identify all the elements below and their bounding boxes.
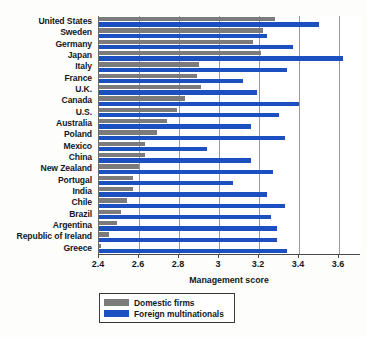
bar-foreign (99, 204, 285, 209)
bar-domestic (99, 176, 133, 181)
category-label: U.K. (75, 84, 92, 96)
bar-group (99, 50, 361, 61)
category-label: Argentina (53, 220, 92, 232)
x-tick-label: 3 (215, 259, 220, 269)
bar-foreign (99, 226, 277, 231)
category-label: Sweden (60, 27, 92, 39)
bar-domestic (99, 17, 275, 22)
bar-foreign (99, 158, 251, 163)
bar-group (99, 243, 361, 254)
bar-domestic (99, 130, 157, 135)
bar-group (99, 231, 361, 242)
plot-area (98, 16, 361, 254)
management-score-bar-chart: United StatesSwedenGermanyJapanItalyFran… (0, 0, 367, 337)
bar-domestic (99, 108, 177, 113)
bar-domestic (99, 198, 127, 203)
category-label: Chile (71, 197, 92, 209)
bar-foreign (99, 68, 287, 73)
legend-label-domestic-firms: Domestic firms (134, 298, 195, 308)
bar-group (99, 73, 361, 84)
bar-domestic (99, 40, 253, 45)
bar-foreign (99, 181, 233, 186)
category-label: Mexico (63, 141, 92, 153)
category-label: Greece (63, 243, 92, 255)
bar-group (99, 95, 361, 106)
bar-domestic (99, 187, 133, 192)
bar-domestic (99, 62, 199, 67)
bar-domestic (99, 51, 261, 56)
bar-foreign (99, 90, 257, 95)
bar-group (99, 163, 361, 174)
bar-group (99, 152, 361, 163)
bar-domestic (99, 210, 121, 215)
x-tick-label: 2.6 (132, 259, 145, 269)
bar-foreign (99, 136, 285, 141)
x-tick-label: 3.6 (332, 259, 345, 269)
bar-group (99, 175, 361, 186)
category-label: Republic of Ireland (17, 231, 92, 243)
bar-foreign (99, 56, 343, 61)
bar-domestic (99, 96, 185, 101)
category-label: India (72, 186, 92, 198)
bar-foreign (99, 124, 251, 129)
legend-swatch-foreign-multinationals (104, 310, 129, 317)
category-label: Japan (68, 50, 92, 62)
bar-foreign (99, 79, 243, 84)
x-axis-title: Management score (98, 275, 360, 285)
bar-domestic (99, 74, 197, 79)
chart-legend: Domestic firms Foreign multinationals (99, 293, 235, 323)
bar-group (99, 129, 361, 140)
bar-group (99, 16, 361, 27)
bar-foreign (99, 22, 319, 27)
x-tick-label: 3.4 (292, 259, 305, 269)
category-label: France (64, 73, 92, 85)
category-label: United States (38, 16, 92, 28)
category-label: Italy (75, 61, 92, 73)
bar-group (99, 197, 361, 208)
x-tick-mark (258, 254, 259, 258)
bar-group (99, 61, 361, 72)
category-label: Canada (62, 95, 92, 107)
x-tick-label: 3.2 (252, 259, 265, 269)
category-label: U.S. (76, 107, 92, 119)
bar-group (99, 84, 361, 95)
category-label: Germany (55, 39, 92, 51)
bar-domestic (99, 85, 201, 90)
x-tick-mark (98, 254, 99, 258)
x-tick-mark (138, 254, 139, 258)
bar-domestic (99, 153, 145, 158)
legend-item: Domestic firms (104, 297, 230, 308)
bar-foreign (99, 215, 271, 220)
bar-group (99, 27, 361, 38)
bar-group (99, 107, 361, 118)
bar-group (99, 118, 361, 129)
bar-foreign (99, 147, 207, 152)
bar-foreign (99, 238, 277, 243)
x-tick-label: 2.4 (92, 259, 105, 269)
x-tick-label: 2.8 (172, 259, 185, 269)
category-label: Poland (64, 129, 92, 141)
bar-foreign (99, 34, 267, 39)
bar-group (99, 39, 361, 50)
category-label: Portugal (58, 175, 92, 187)
category-label: China (69, 152, 92, 164)
bar-group (99, 209, 361, 220)
category-label: Australia (56, 118, 92, 130)
x-tick-mark (218, 254, 219, 258)
category-label: Brazil (69, 209, 92, 221)
bar-domestic (99, 119, 167, 124)
bar-domestic (99, 232, 109, 237)
bar-group (99, 141, 361, 152)
bar-foreign (99, 102, 299, 107)
legend-label-foreign-multinationals: Foreign multinationals (134, 309, 224, 319)
bar-domestic (99, 164, 139, 169)
x-tick-mark (338, 254, 339, 258)
legend-item: Foreign multinationals (104, 308, 230, 319)
bar-group (99, 220, 361, 231)
category-label: New Zealand (41, 163, 92, 175)
bar-foreign (99, 113, 279, 118)
legend-swatch-domestic-firms (104, 299, 129, 306)
x-tick-mark (178, 254, 179, 258)
bar-domestic (99, 244, 101, 249)
category-axis-labels: United StatesSwedenGermanyJapanItalyFran… (0, 16, 95, 254)
